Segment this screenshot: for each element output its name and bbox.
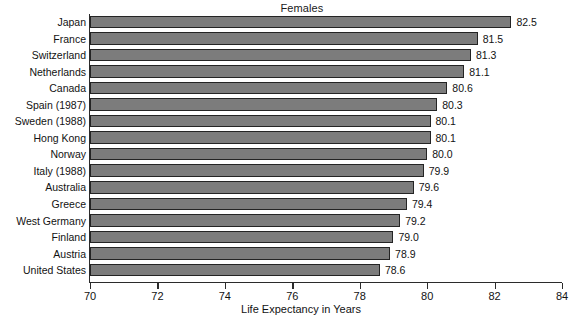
x-tick (427, 283, 428, 289)
x-tick-label: 82 (488, 290, 500, 302)
x-tick (90, 283, 91, 289)
category-label: Netherlands (29, 65, 86, 79)
x-tick (360, 283, 361, 289)
bar-row: Hong Kong80.1 (0, 130, 580, 147)
bar (90, 148, 427, 161)
bar (90, 247, 390, 260)
bar-value-label: 79.9 (429, 164, 449, 178)
bar-value-label: 81.5 (483, 32, 503, 46)
bar-value-label: 79.2 (405, 214, 425, 228)
category-label: United States (23, 263, 86, 277)
bar-value-label: 80.1 (436, 131, 456, 145)
x-tick (225, 283, 226, 289)
category-label: France (53, 32, 86, 46)
bar (90, 264, 380, 277)
bar-row: Austria78.9 (0, 246, 580, 263)
x-tick-label: 84 (556, 290, 568, 302)
x-axis-title: Life Expectancy in Years (0, 303, 580, 315)
category-label: Japan (57, 15, 86, 29)
category-label: Spain (1987) (26, 98, 86, 112)
bar (90, 231, 393, 244)
category-label: Canada (49, 81, 86, 95)
category-label: Switzerland (32, 48, 86, 62)
bar-row: United States78.6 (0, 262, 580, 279)
category-label: Italy (1988) (33, 164, 86, 178)
bar (90, 32, 478, 45)
bar-value-label: 79.4 (412, 197, 432, 211)
bar (90, 164, 424, 177)
bar-value-label: 78.9 (395, 247, 415, 261)
category-label: Greece (52, 197, 86, 211)
chart-title: Females (0, 2, 580, 14)
category-label: Austria (53, 247, 86, 261)
bar-row: Norway80.0 (0, 146, 580, 163)
x-tick-label: 74 (219, 290, 231, 302)
category-label: Finland (52, 230, 86, 244)
x-tick (157, 283, 158, 289)
x-tick-label: 70 (84, 290, 96, 302)
x-tick-label: 76 (286, 290, 298, 302)
bar-value-label: 79.0 (398, 230, 418, 244)
category-label: Australia (45, 180, 86, 194)
bar-row: Japan82.5 (0, 14, 580, 31)
bar-value-label: 79.6 (419, 180, 439, 194)
bar (90, 65, 464, 78)
bar-row: Switzerland81.3 (0, 47, 580, 64)
bar (90, 82, 447, 95)
category-label: Hong Kong (33, 131, 86, 145)
bar-row: Spain (1987)80.3 (0, 97, 580, 114)
x-tick (495, 283, 496, 289)
bar-row: Netherlands81.1 (0, 64, 580, 81)
x-tick (292, 283, 293, 289)
bar (90, 131, 431, 144)
category-label: Sweden (1988) (15, 114, 86, 128)
bar-value-label: 80.3 (442, 98, 462, 112)
bar-row: France81.5 (0, 31, 580, 48)
bar-value-label: 78.6 (385, 263, 405, 277)
x-tick-label: 80 (421, 290, 433, 302)
bar-row: Greece79.4 (0, 196, 580, 213)
bar-row: Sweden (1988)80.1 (0, 113, 580, 130)
bar-row: Canada80.6 (0, 80, 580, 97)
bar-value-label: 82.5 (516, 15, 536, 29)
bar (90, 49, 471, 62)
bar-rows: Japan82.5France81.5Switzerland81.3Nether… (0, 14, 580, 280)
bar-value-label: 80.0 (432, 147, 452, 161)
bar (90, 98, 437, 111)
bar-row: Italy (1988)79.9 (0, 163, 580, 180)
bar-value-label: 81.1 (469, 65, 489, 79)
bar (90, 115, 431, 128)
bar-row: Australia79.6 (0, 179, 580, 196)
bar-row: Finland79.0 (0, 229, 580, 246)
bar-chart: Females Japan82.5France81.5Switzerland81… (0, 0, 580, 330)
x-tick-label: 78 (354, 290, 366, 302)
x-tick-label: 72 (151, 290, 163, 302)
bar (90, 214, 400, 227)
bar (90, 181, 414, 194)
bar (90, 16, 511, 29)
bar-value-label: 80.6 (452, 81, 472, 95)
bar-value-label: 80.1 (436, 114, 456, 128)
category-label: Norway (50, 147, 86, 161)
category-label: West Germany (16, 214, 86, 228)
bar-row: West Germany79.2 (0, 213, 580, 230)
bar (90, 198, 407, 211)
bar-value-label: 81.3 (476, 48, 496, 62)
x-tick (562, 283, 563, 289)
